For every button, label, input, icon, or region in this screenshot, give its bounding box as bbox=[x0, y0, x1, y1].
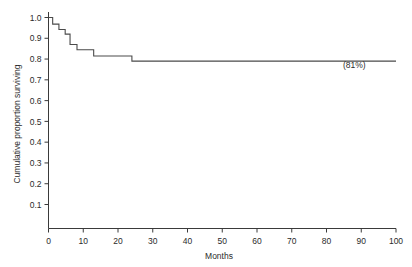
x-tick-label: 40 bbox=[183, 236, 193, 246]
y-axis: 0.10.20.30.40.50.60.70.80.91.0 Cumulativ… bbox=[12, 12, 49, 229]
x-axis-label: Months bbox=[205, 251, 233, 261]
y-tick-marks bbox=[45, 18, 49, 205]
survival-curve bbox=[49, 18, 397, 62]
x-tick-label: 60 bbox=[252, 236, 262, 246]
y-axis-label: Cumulative proportion surviving bbox=[12, 64, 22, 183]
x-tick-labels: 0102030405060708090100 bbox=[46, 236, 403, 246]
x-tick-label: 10 bbox=[79, 236, 89, 246]
y-tick-label: 0.7 bbox=[30, 75, 42, 85]
chart-annotations: (81%) bbox=[343, 60, 366, 70]
x-tick-label: 50 bbox=[218, 236, 228, 246]
x-tick-label: 100 bbox=[389, 236, 403, 246]
survival-rate-annotation: (81%) bbox=[343, 60, 366, 70]
x-tick-label: 0 bbox=[46, 236, 51, 246]
y-tick-label: 1.0 bbox=[30, 13, 42, 23]
y-tick-label: 0.3 bbox=[30, 158, 42, 168]
x-tick-label: 20 bbox=[113, 236, 123, 246]
y-tick-labels: 0.10.20.30.40.50.60.70.80.91.0 bbox=[30, 13, 42, 210]
x-tick-marks bbox=[49, 229, 397, 233]
x-tick-label: 90 bbox=[357, 236, 367, 246]
y-tick-label: 0.9 bbox=[30, 33, 42, 43]
y-tick-label: 0.4 bbox=[30, 137, 42, 147]
y-tick-label: 0.6 bbox=[30, 96, 42, 106]
chart-canvas: 0.10.20.30.40.50.60.70.80.91.0 Cumulativ… bbox=[0, 0, 412, 267]
x-axis: 0102030405060708090100 Months bbox=[46, 229, 403, 262]
x-tick-label: 80 bbox=[322, 236, 332, 246]
y-tick-label: 0.2 bbox=[30, 179, 42, 189]
y-tick-label: 0.5 bbox=[30, 117, 42, 127]
x-tick-label: 70 bbox=[287, 236, 297, 246]
x-tick-label: 30 bbox=[148, 236, 158, 246]
y-tick-label: 0.8 bbox=[30, 54, 42, 64]
y-tick-label: 0.1 bbox=[30, 200, 42, 210]
series-group bbox=[49, 18, 397, 62]
survival-chart: 0.10.20.30.40.50.60.70.80.91.0 Cumulativ… bbox=[0, 0, 412, 267]
